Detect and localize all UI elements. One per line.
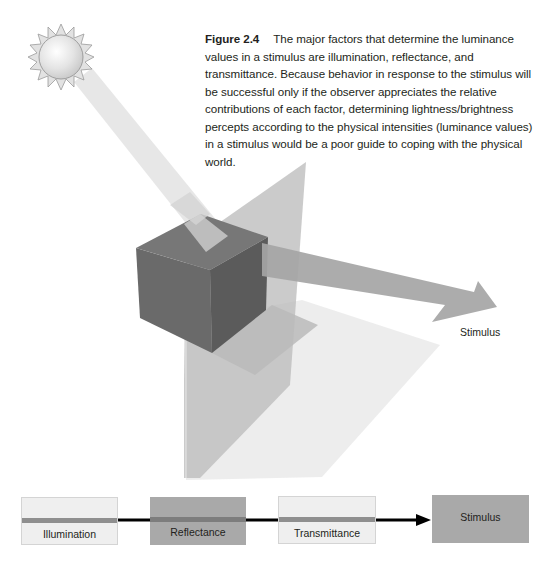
figure-caption: Figure 2.4The major factors that determi…	[205, 30, 537, 170]
luminance-band	[22, 518, 117, 523]
flow-arrowhead	[416, 514, 431, 526]
box-label: Illumination	[22, 528, 117, 540]
luminance-band	[279, 517, 375, 522]
luminance-band	[150, 517, 246, 522]
figure-label: Figure 2.4	[205, 32, 259, 45]
box-label: Stimulus	[432, 511, 529, 523]
sun-icon	[28, 24, 94, 90]
flow-box-reflectance: Reflectance	[150, 497, 246, 545]
caption-text: The major factors that determine the lum…	[205, 32, 532, 168]
box-label: Reflectance	[150, 526, 246, 538]
flow-box-stimulus: Stimulus	[432, 495, 529, 543]
box-label: Transmittance	[279, 527, 375, 539]
flow-box-transmittance: Transmittance	[278, 496, 376, 544]
stimulus-arrow-label: Stimulus	[460, 326, 500, 338]
flow-box-illumination: Illumination	[21, 497, 118, 545]
